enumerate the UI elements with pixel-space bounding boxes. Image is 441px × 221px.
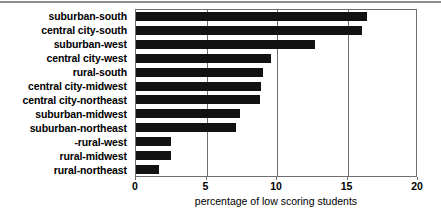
- axis-title: percentage of low scoring students: [135, 196, 417, 208]
- bar-slot: [136, 134, 416, 148]
- bar: [136, 12, 367, 21]
- category-label: central city-midwest: [0, 79, 131, 93]
- bar: [136, 123, 236, 132]
- bar-slot: [136, 24, 416, 38]
- tick-label: 0: [132, 181, 138, 192]
- category-label: rural-northeast: [0, 163, 131, 177]
- bar: [136, 40, 315, 49]
- category-axis-labels: suburban-south central city-south suburb…: [0, 9, 131, 177]
- category-label: central city-south: [0, 23, 131, 37]
- bar-slot: [136, 162, 416, 176]
- bar-chart: suburban-south central city-south suburb…: [0, 0, 441, 221]
- category-label: rural-south: [0, 65, 131, 79]
- category-label: central city-northeast: [0, 93, 131, 107]
- tick-label: 5: [203, 181, 209, 192]
- bar: [136, 26, 362, 35]
- tick-label: 15: [341, 181, 353, 192]
- bar-slot: [136, 107, 416, 121]
- bar: [136, 68, 263, 77]
- bar: [136, 82, 261, 91]
- category-label: -rural-west: [0, 135, 131, 149]
- category-label: suburban-west: [0, 37, 131, 51]
- bar-slot: [136, 148, 416, 162]
- top-divider-rule: [0, 1, 441, 3]
- bar: [136, 95, 260, 104]
- category-label: suburban-south: [0, 9, 131, 23]
- category-label: suburban-midwest: [0, 107, 131, 121]
- bar-slot: [136, 65, 416, 79]
- bar-slot: [136, 93, 416, 107]
- bar-slot: [136, 38, 416, 52]
- bar: [136, 109, 240, 118]
- bar-slot: [136, 79, 416, 93]
- bar-series: [136, 10, 416, 176]
- bar: [136, 165, 159, 174]
- bar: [136, 151, 171, 160]
- category-label: rural-midwest: [0, 149, 131, 163]
- bar: [136, 137, 171, 146]
- tick-label: 10: [270, 181, 282, 192]
- bar-slot: [136, 51, 416, 65]
- bar: [136, 54, 271, 63]
- category-label: suburban-northeast: [0, 121, 131, 135]
- category-label: central city-west: [0, 51, 131, 65]
- value-axis: 05101520: [135, 177, 417, 195]
- bar-slot: [136, 121, 416, 135]
- tick-label: 20: [411, 181, 423, 192]
- plot-area: [135, 9, 417, 177]
- bar-slot: [136, 10, 416, 24]
